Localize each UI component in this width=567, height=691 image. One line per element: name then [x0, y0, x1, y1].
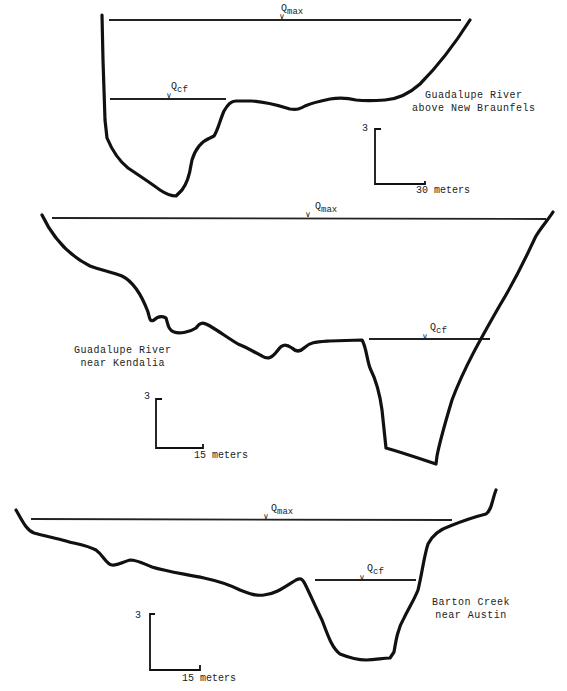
channel-profile-3 [16, 490, 496, 660]
scale-horizontal-label-2: 15 meters [194, 450, 248, 461]
water-surface-marker-icon: ∨ [166, 92, 172, 100]
water-surface-marker-icon: ∨ [422, 333, 428, 341]
station-label-barton-creek: Barton Creek near Austin [432, 596, 510, 622]
water-surface-marker-icon: ∨ [279, 13, 285, 21]
scale-bar-2 [156, 399, 203, 448]
station-label-new-braunfels: Guadalupe River above New Braunfels [412, 89, 536, 115]
channel-profile-2 [42, 212, 553, 464]
qmax-label-3: Qmax [271, 503, 293, 517]
panel-barton-creek [16, 490, 496, 670]
station-name: Guadalupe River [412, 89, 536, 102]
scale-bar-1 [375, 129, 425, 184]
scale-bar-3 [150, 614, 200, 670]
qmax-line-3 [31, 519, 452, 520]
qcf-label-1: Qcf [171, 81, 188, 95]
station-location: near Austin [432, 609, 510, 622]
qmax-line-2 [52, 218, 546, 219]
scale-horizontal-label-3: 15 meters [182, 673, 236, 684]
station-label-kendalia: Guadalupe River near Kendalia [74, 344, 172, 370]
station-name: Barton Creek [432, 596, 510, 609]
panel-kendalia [42, 212, 553, 464]
station-name: Guadalupe River [74, 344, 172, 357]
qcf-label-3: Qcf [367, 563, 384, 577]
scale-vertical-label-1: 3 [362, 123, 368, 134]
qmax-label-2: Qmax [315, 201, 337, 215]
scale-horizontal-label-1: 30 meters [416, 185, 470, 196]
water-surface-marker-icon: ∨ [359, 574, 365, 582]
scale-vertical-label-3: 3 [135, 610, 141, 621]
station-location: above New Braunfels [412, 102, 536, 115]
water-surface-marker-icon: ∨ [263, 513, 269, 521]
water-surface-marker-icon: ∨ [305, 211, 311, 219]
scale-vertical-label-2: 3 [144, 391, 150, 402]
qcf-label-2: Qcf [430, 322, 447, 336]
station-location: near Kendalia [74, 357, 172, 370]
